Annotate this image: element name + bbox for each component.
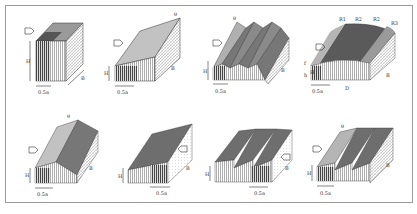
svg-text:0.5a: 0.5a (38, 89, 49, 95)
svg-text:h: h (304, 72, 308, 78)
svg-text:B: B (81, 75, 85, 81)
wind-direction-icon (313, 146, 322, 152)
panel-mono-pitch-side-wind: H 0.5a B (118, 124, 192, 196)
svg-text:B: B (186, 165, 190, 171)
panel-multi-span-pitched: H 0.5a B θ (203, 15, 289, 94)
svg-text:H: H (310, 69, 315, 75)
wind-direction-icon (114, 40, 123, 46)
svg-text:B: B (89, 165, 93, 171)
svg-text:R2: R2 (355, 16, 362, 22)
svg-text:H: H (25, 172, 30, 178)
svg-text:H: H (104, 70, 109, 76)
svg-text:θ: θ (67, 113, 70, 119)
wind-direction-icon (213, 40, 222, 46)
svg-text:H: H (118, 173, 123, 179)
svg-text:H: H (203, 68, 208, 74)
panel-curved-roof: R1 R2 R2 R3 f h H 0.5a D B (304, 16, 398, 94)
svg-text:B: B (171, 65, 175, 71)
svg-text:0.5a: 0.5a (156, 190, 167, 196)
svg-text:θ: θ (233, 15, 236, 21)
svg-text:0.5a: 0.5a (215, 88, 226, 94)
svg-text:0.5a: 0.5a (117, 89, 128, 95)
svg-text:0.5a: 0.5a (254, 190, 265, 196)
wind-direction-icon (29, 147, 38, 153)
panel-mono-pitch: H 0.5a B θ (104, 11, 180, 95)
svg-text:0.5a: 0.5a (312, 88, 323, 94)
svg-text:0.5a: 0.5a (37, 191, 48, 197)
svg-text:R3: R3 (391, 20, 398, 26)
svg-text:D: D (345, 85, 349, 91)
svg-text:θ: θ (174, 11, 177, 17)
building-shapes-diagram: H 0.5a B H 0.5a B θ H 0.5a B θ (0, 0, 417, 214)
svg-text:R2: R2 (373, 16, 380, 22)
wind-direction-icon (25, 28, 34, 34)
svg-text:B: B (386, 72, 390, 78)
svg-text:H: H (205, 171, 210, 177)
panel-duo-pitch: H 0.5a B θ (25, 113, 98, 197)
panel-sawtooth-side-wind: H 0.5a B (205, 129, 292, 196)
svg-text:H: H (307, 170, 312, 176)
svg-text:H: H (26, 58, 31, 64)
panel-flat-box: H 0.5a B (25, 23, 85, 95)
svg-text:0.5a: 0.5a (320, 190, 331, 196)
svg-text:f: f (304, 60, 307, 66)
svg-text:B: B (386, 162, 390, 168)
svg-text:R1: R1 (339, 16, 346, 22)
svg-text:θ: θ (341, 123, 344, 129)
svg-text:B: B (281, 67, 285, 73)
svg-text:B: B (285, 165, 289, 171)
panel-sawtooth: H 0.5a B θ (307, 123, 393, 196)
